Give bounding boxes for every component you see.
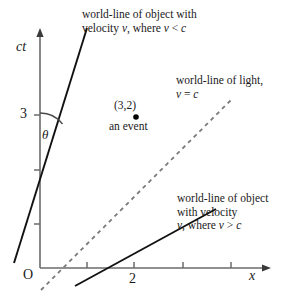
diagram-canvas: [0, 0, 303, 305]
y-axis-arrowhead: [36, 28, 43, 37]
event-coordinates-label: (3,2): [114, 99, 136, 113]
x-axis-arrowhead: [262, 264, 271, 271]
annotation-subluminal-line2: velocity v, where v < c: [82, 22, 197, 36]
annotation-superluminal-greaterthan: >: [224, 219, 236, 231]
annotation-superluminal-where: , where: [182, 219, 219, 231]
annotation-subluminal-velocity-word: velocity: [82, 22, 122, 34]
annotation-subluminal-c: c: [181, 22, 186, 34]
event-name-label: an event: [109, 120, 148, 134]
annotation-subluminal-lessthan: <: [169, 22, 181, 34]
origin-label: O: [23, 267, 33, 284]
annotation-subluminal-where: , where: [127, 22, 164, 34]
angle-label-theta: θ: [42, 127, 48, 142]
annotation-superluminal-line1: world-line of object: [177, 192, 268, 206]
annotation-superluminal-line3: v, where v > c: [177, 219, 268, 233]
y-axis-group: [34, 28, 44, 268]
x-axis-group: [40, 262, 271, 272]
y-axis-label: ct: [16, 39, 26, 56]
annotation-light: world-line of light, v = c: [176, 74, 263, 101]
annotation-superluminal-line2: with velocity: [177, 206, 268, 220]
x-axis-tick-label-2: 2: [129, 271, 136, 288]
annotation-light-line1: world-line of light,: [176, 74, 263, 88]
x-axis-label: x: [249, 268, 255, 285]
annotation-light-equals: =: [181, 88, 193, 100]
y-axis-tick-label-3: 3: [20, 106, 27, 123]
annotation-light-c: c: [193, 88, 198, 100]
worldline-subluminal: [14, 28, 87, 263]
annotation-subluminal-line1: world-line of object with: [82, 8, 197, 22]
annotation-superluminal: world-line of object with velocity v, wh…: [177, 192, 268, 233]
annotation-light-line2: v = c: [176, 88, 263, 102]
annotation-superluminal-c: c: [236, 219, 241, 231]
event-point-marker: [133, 114, 139, 120]
annotation-subluminal: world-line of object with velocity v, wh…: [82, 8, 197, 35]
spacetime-diagram-figure: ct x O 3 2 θ world-line of object with v…: [0, 0, 303, 305]
